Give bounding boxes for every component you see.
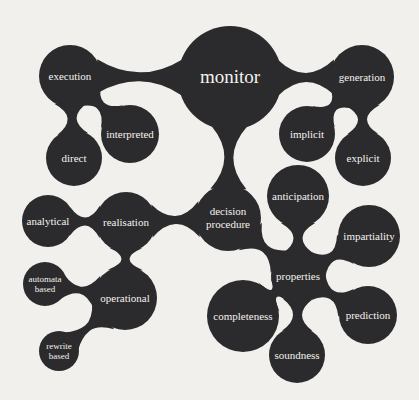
connector-properties-anticipation [281,223,315,253]
node-execution: execution [39,45,101,107]
node-rewrite-based: rewritebased [39,331,79,371]
node-automata-based: automatabased [23,262,67,306]
node-properties: properties [271,249,325,303]
node-analytical: analytical [22,195,74,247]
node-label: automata [29,274,62,284]
node-monitor: monitor [178,26,282,130]
node-label: analytical [27,215,70,227]
node-label: operational [100,292,149,304]
node-label: interpreted [106,128,154,140]
node-label: properties [276,270,320,282]
node-decision-procedure: decisionprocedure [195,185,261,251]
node-label: explicit [347,152,380,164]
node-label: based [35,284,56,294]
node-direct: direct [46,130,102,186]
node-label: execution [49,70,92,82]
node-implicit: implicit [279,106,335,162]
node-prediction: prediction [339,286,397,344]
node-soundness: soundness [269,327,325,383]
node-label: anticipation [272,190,324,202]
connector-monitor-decision-procedure [210,126,247,190]
connector-decision-procedure-realisation [151,201,199,237]
connector-execution-direct [54,102,88,135]
connector-realisation-analytical [70,205,100,238]
node-label: monitor [200,66,261,87]
node-operational: operational [93,266,157,330]
node-label: implicit [290,128,324,140]
connector-generation-explicit [345,105,380,134]
connector-monitor-execution [97,59,182,95]
node-label: decision [210,205,247,217]
node-anticipation: anticipation [267,165,329,227]
node-label: generation [339,71,386,83]
node-label: soundness [274,349,319,361]
node-label: procedure [206,218,250,230]
node-interpreted: interpreted [101,105,159,163]
connector-properties-soundness [282,299,313,331]
node-label: rewrite [46,341,71,351]
mind-map-diagram: monitorexecutioninterpreteddirectgenerat… [0,0,419,400]
node-label: prediction [346,309,391,321]
node-impartiality: impartiality [338,205,400,267]
node-label: direct [61,152,86,164]
node-label: completeness [213,310,272,322]
connector-monitor-generation [278,60,334,96]
node-realisation: realisation [96,192,156,252]
node-completeness: completeness [207,280,279,352]
node-explicit: explicit [335,130,391,186]
bubble-diagram-canvas: monitorexecutioninterpreteddirectgenerat… [0,0,419,400]
node-label: impartiality [343,230,395,242]
node-generation: generation [330,45,394,109]
node-label: based [49,351,70,361]
node-label: realisation [103,216,149,228]
